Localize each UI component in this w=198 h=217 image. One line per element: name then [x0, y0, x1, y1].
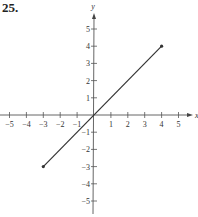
y-tick-label: −1 [81, 128, 90, 137]
y-tick-label: 5 [86, 25, 90, 34]
y-axis-label: y [90, 2, 95, 11]
segment-endpoint [160, 45, 163, 48]
y-tick-label: 3 [86, 59, 90, 68]
segment-line [43, 46, 161, 166]
y-tick-label: −3 [81, 163, 90, 172]
series [42, 45, 164, 169]
chart: xy −5−4−3−2−112345−5−4−3−2−112345 [0, 0, 198, 217]
x-tick-label: −3 [39, 120, 48, 129]
x-tick-label: −4 [22, 120, 31, 129]
x-tick-label: 1 [109, 120, 113, 129]
x-tick-label: 4 [160, 120, 164, 129]
x-tick-label: 5 [177, 120, 181, 129]
x-axis-label: x [194, 111, 198, 120]
y-axis-arrow [92, 13, 96, 19]
x-axis-arrow [187, 113, 193, 117]
y-tick-label: 2 [86, 77, 90, 86]
x-tick-label: 2 [126, 120, 130, 129]
axes: xy [0, 2, 198, 214]
y-tick-label: 1 [86, 94, 90, 103]
x-tick-label: −2 [56, 120, 65, 129]
x-tick-label: 3 [143, 120, 147, 129]
y-tick-label: −5 [81, 197, 90, 206]
y-tick-label: −4 [81, 180, 90, 189]
x-tick-label: −1 [73, 120, 82, 129]
segment-endpoint [42, 165, 45, 168]
x-tick-label: −5 [5, 120, 14, 129]
y-tick-label: 4 [86, 42, 90, 51]
y-tick-label: −2 [81, 145, 90, 154]
